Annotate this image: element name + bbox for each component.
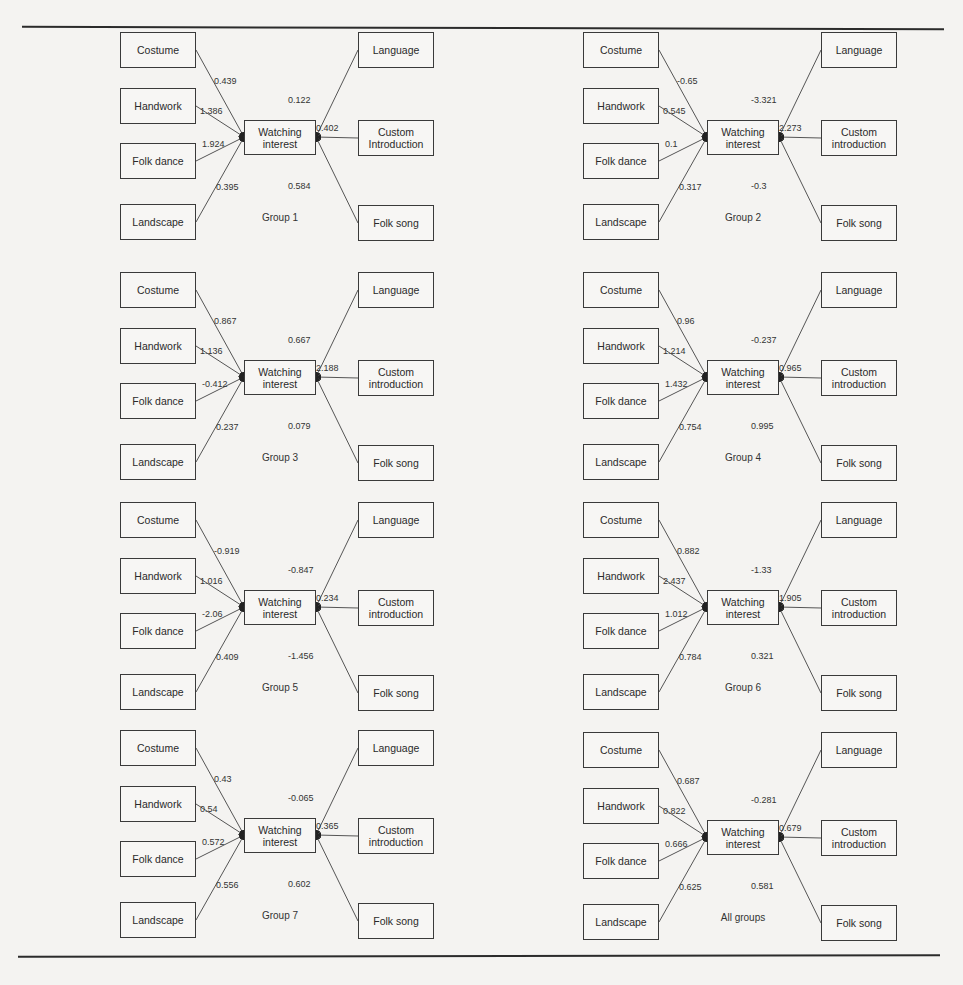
node-watching-interest: Watchinginterest bbox=[707, 590, 779, 625]
coef-custom-introduction: 1.905 bbox=[779, 593, 802, 603]
coef-folk-dance: 0.572 bbox=[202, 837, 225, 847]
node-custom-introduction: Customintroduction bbox=[821, 590, 897, 626]
node-landscape: Landscape bbox=[120, 204, 196, 240]
node-costume: Costume bbox=[583, 502, 659, 538]
node-folk-song: Folk song bbox=[821, 675, 897, 711]
node-custom-introduction: CustomIntroduction bbox=[358, 120, 434, 156]
node-costume: Costume bbox=[120, 502, 196, 538]
coef-folk-song: 0.581 bbox=[751, 881, 774, 891]
group-panel-3: Costume Handwork Folk dance Landscape Wa… bbox=[120, 262, 450, 492]
coef-language: -3.321 bbox=[751, 95, 777, 105]
node-custom-introduction: Customintroduction bbox=[821, 120, 897, 156]
node-costume: Costume bbox=[583, 272, 659, 308]
node-language: Language bbox=[358, 502, 434, 538]
node-language: Language bbox=[358, 272, 434, 308]
coef-folk-song: 0.079 bbox=[288, 421, 311, 431]
node-landscape: Landscape bbox=[120, 444, 196, 480]
coef-handwork: 1.386 bbox=[200, 106, 223, 116]
coef-language: 0.122 bbox=[288, 95, 311, 105]
node-watching-interest: Watchinginterest bbox=[244, 590, 316, 625]
coef-folk-dance: -2.06 bbox=[202, 609, 223, 619]
coef-costume: 0.882 bbox=[677, 546, 700, 556]
coef-custom-introduction: 2.273 bbox=[779, 123, 802, 133]
node-watching-interest: Watchinginterest bbox=[244, 360, 316, 395]
node-costume: Costume bbox=[583, 32, 659, 68]
group-panel-8: Costume Handwork Folk dance Landscape Wa… bbox=[583, 722, 913, 952]
node-costume: Costume bbox=[120, 32, 196, 68]
group-panel-5: Costume Handwork Folk dance Landscape Wa… bbox=[120, 492, 450, 722]
coef-language: 0.667 bbox=[288, 335, 311, 345]
coef-landscape: 0.754 bbox=[679, 422, 702, 432]
coef-folk-song: 0.602 bbox=[288, 879, 311, 889]
coef-costume: 0.43 bbox=[214, 774, 232, 784]
node-watching-interest: Watchinginterest bbox=[707, 120, 779, 155]
node-folk-song: Folk song bbox=[821, 205, 897, 241]
coef-folk-song: -0.3 bbox=[751, 181, 767, 191]
coef-costume: 0.439 bbox=[214, 76, 237, 86]
node-handwork: Handwork bbox=[583, 88, 659, 124]
coef-folk-dance: 0.666 bbox=[665, 839, 688, 849]
coef-custom-introduction: 0.965 bbox=[779, 363, 802, 373]
group-panel-6: Costume Handwork Folk dance Landscape Wa… bbox=[583, 492, 913, 722]
coef-costume: 0.687 bbox=[677, 776, 700, 786]
bottom-rule bbox=[18, 954, 940, 958]
coef-custom-introduction: 0.234 bbox=[316, 593, 339, 603]
coef-language: -1.33 bbox=[751, 565, 772, 575]
node-language: Language bbox=[821, 732, 897, 768]
group-title: All groups bbox=[707, 912, 779, 923]
node-handwork: Handwork bbox=[583, 788, 659, 824]
node-landscape: Landscape bbox=[120, 902, 196, 938]
coef-costume: -0.65 bbox=[677, 76, 698, 86]
group-panel-2: Costume Handwork Folk dance Landscape Wa… bbox=[583, 22, 913, 252]
node-language: Language bbox=[358, 32, 434, 68]
coef-language: -0.237 bbox=[751, 335, 777, 345]
node-costume: Costume bbox=[120, 272, 196, 308]
group-panel-7: Costume Handwork Folk dance Landscape Wa… bbox=[120, 720, 450, 950]
node-custom-introduction: Customintroduction bbox=[358, 360, 434, 396]
node-watching-interest: Watchinginterest bbox=[707, 820, 779, 855]
group-title: Group 1 bbox=[244, 212, 316, 223]
group-panel-1: Costume Handwork Folk dance Landscape Wa… bbox=[120, 22, 450, 252]
node-landscape: Landscape bbox=[583, 204, 659, 240]
coef-landscape: 0.317 bbox=[679, 182, 702, 192]
node-folk-song: Folk song bbox=[358, 205, 434, 241]
node-handwork: Handwork bbox=[120, 88, 196, 124]
coef-language: -0.281 bbox=[751, 795, 777, 805]
coef-custom-introduction: 2.188 bbox=[316, 363, 339, 373]
coef-landscape: 0.784 bbox=[679, 652, 702, 662]
coef-language: -0.847 bbox=[288, 565, 314, 575]
node-handwork: Handwork bbox=[583, 328, 659, 364]
node-folk-dance: Folk dance bbox=[583, 143, 659, 179]
coef-landscape: 0.556 bbox=[216, 880, 239, 890]
node-folk-dance: Folk dance bbox=[120, 383, 196, 419]
node-folk-dance: Folk dance bbox=[120, 143, 196, 179]
node-costume: Costume bbox=[120, 730, 196, 766]
coef-landscape: 0.237 bbox=[216, 422, 239, 432]
node-language: Language bbox=[821, 32, 897, 68]
coef-handwork: 1.214 bbox=[663, 346, 686, 356]
node-folk-dance: Folk dance bbox=[120, 841, 196, 877]
coef-folk-dance: 1.012 bbox=[665, 609, 688, 619]
group-title: Group 5 bbox=[244, 682, 316, 693]
coef-landscape: 0.395 bbox=[216, 182, 239, 192]
coef-folk-song: 0.995 bbox=[751, 421, 774, 431]
coef-landscape: 0.625 bbox=[679, 882, 702, 892]
node-folk-song: Folk song bbox=[358, 903, 434, 939]
group-title: Group 4 bbox=[707, 452, 779, 463]
coef-custom-introduction: 0.365 bbox=[316, 821, 339, 831]
coef-landscape: 0.409 bbox=[216, 652, 239, 662]
group-title: Group 3 bbox=[244, 452, 316, 463]
node-handwork: Handwork bbox=[120, 328, 196, 364]
coef-folk-dance: 1.432 bbox=[665, 379, 688, 389]
node-landscape: Landscape bbox=[120, 674, 196, 710]
node-folk-song: Folk song bbox=[358, 445, 434, 481]
coef-handwork: 1.016 bbox=[200, 576, 223, 586]
group-title: Group 2 bbox=[707, 212, 779, 223]
node-folk-dance: Folk dance bbox=[583, 383, 659, 419]
coef-costume: 0.96 bbox=[677, 316, 695, 326]
coef-custom-introduction: 0.402 bbox=[316, 123, 339, 133]
node-handwork: Handwork bbox=[120, 558, 196, 594]
node-handwork: Handwork bbox=[583, 558, 659, 594]
node-landscape: Landscape bbox=[583, 904, 659, 940]
coef-folk-dance: 0.1 bbox=[665, 139, 678, 149]
